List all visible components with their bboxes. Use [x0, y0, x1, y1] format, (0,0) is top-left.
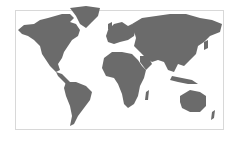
- region-madagascar: [145, 90, 149, 100]
- region-australia: [180, 90, 206, 112]
- region-south-america: [64, 82, 92, 126]
- region-japan: [204, 40, 208, 50]
- world-map: [0, 0, 239, 141]
- region-north-america: [18, 14, 80, 72]
- region-new-zealand: [211, 110, 215, 120]
- region-africa: [102, 52, 146, 108]
- region-indonesia: [170, 76, 198, 84]
